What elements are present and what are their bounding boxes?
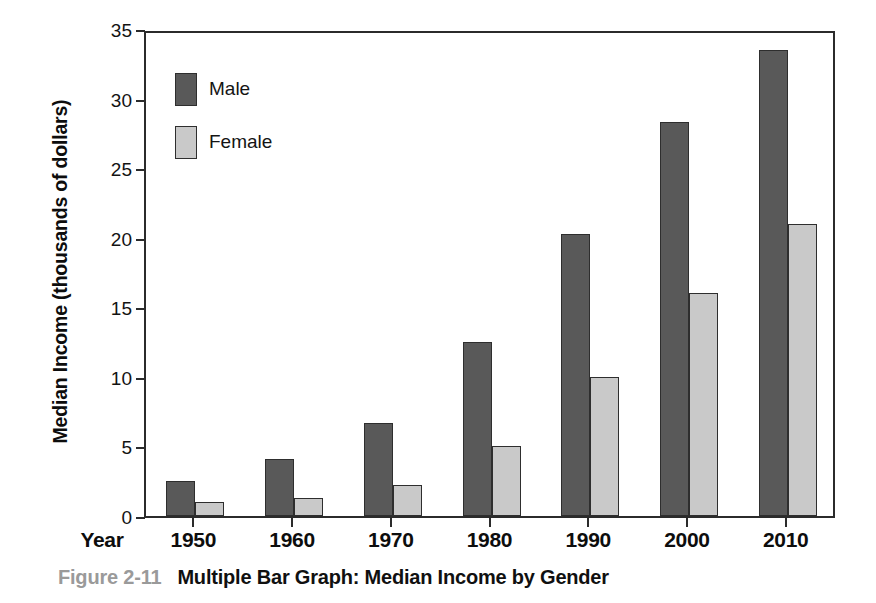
bar-female-1990 (590, 377, 619, 516)
bar-male-1990 (561, 234, 590, 516)
y-axis-tick-label: 15 (92, 298, 132, 320)
y-axis-tick-label: 20 (92, 229, 132, 251)
plot-area: MaleFemale (144, 31, 835, 518)
bar-female-1960 (294, 498, 323, 516)
x-axis-tick-mark (785, 518, 787, 527)
legend-swatch-icon-male (175, 73, 197, 106)
figure-caption: Figure 2-11Multiple Bar Graph: Median In… (58, 566, 609, 589)
x-axis-tick-mark (587, 518, 589, 527)
bar-female-1970 (393, 485, 422, 516)
x-axis-tick-label-2010: 2010 (726, 528, 846, 552)
y-axis-tick-label: 25 (92, 159, 132, 181)
legend-label: Male (209, 78, 250, 100)
y-axis-tick-label: 35 (92, 20, 132, 42)
x-axis-tick-mark (390, 518, 392, 527)
y-axis-tick-label: 10 (92, 368, 132, 390)
figure-caption-text: Multiple Bar Graph: Median Income by Gen… (177, 566, 608, 588)
x-axis-tick-mark (291, 518, 293, 527)
bar-male-1960 (265, 459, 294, 516)
bar-male-1950 (166, 481, 195, 516)
bar-male-1980 (463, 342, 492, 516)
y-axis-title: Median Income (thousands of dollars) (49, 52, 72, 492)
legend-label: Female (209, 131, 272, 153)
x-axis-name: Year (62, 528, 142, 552)
legend-swatch-icon-female (175, 126, 197, 159)
bar-male-2010 (759, 50, 788, 516)
y-axis-tick-label: 0 (92, 507, 132, 529)
bar-male-1970 (364, 423, 393, 516)
bar-female-1950 (195, 502, 224, 516)
bar-female-2010 (788, 224, 817, 516)
figure-container: Median Income (thousands of dollars) 051… (0, 0, 876, 603)
bar-female-1980 (492, 446, 521, 516)
bar-male-2000 (660, 122, 689, 516)
bar-female-2000 (689, 293, 718, 516)
x-axis-tick-mark (686, 518, 688, 527)
y-axis-tick-label: 30 (92, 90, 132, 112)
plot-inner: MaleFemale (146, 33, 833, 516)
y-axis-tick-label: 5 (92, 437, 132, 459)
x-axis-tick-mark (489, 518, 491, 527)
x-axis-tick-mark (192, 518, 194, 527)
figure-number: Figure 2-11 (58, 566, 161, 588)
